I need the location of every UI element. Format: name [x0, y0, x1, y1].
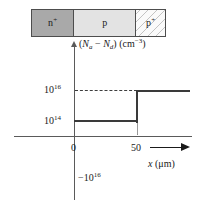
y-axis-arrow-icon: [71, 41, 77, 47]
dashed-guide-1e16: [75, 90, 137, 91]
xtick-0: 0: [71, 143, 76, 153]
x-axis-line: [14, 136, 192, 137]
ytick-neg-1e16: −1016: [78, 173, 101, 183]
doping-profile-figure: n+ p p+ (Na − Nd) (cm−3) 1016 1014 −1016: [0, 0, 202, 205]
device-region-p-plus: p+: [136, 10, 165, 36]
device-cross-section-bar: n+ p p+: [31, 9, 166, 37]
x-axis-arrow-shaft-icon: [150, 147, 183, 149]
y-axis-label: (Na − Nd) (cm−3): [79, 39, 146, 49]
step-drop-tick-x50: [137, 123, 138, 134]
x-axis-arrow-head-icon: [181, 143, 190, 151]
curve-segment-p: [74, 120, 137, 122]
curve-step-riser: [136, 90, 138, 123]
curve-segment-p-plus: [137, 90, 190, 92]
device-region-p-label: p: [102, 18, 107, 28]
plot-area: (Na − Nd) (cm−3) 1016 1014 −1016 0 50 x …: [0, 37, 202, 205]
device-region-p-plus-label: p+: [146, 18, 155, 28]
xtick-50: 50: [131, 143, 141, 153]
device-region-n-plus: n+: [32, 10, 74, 36]
device-region-n-plus-label: n+: [48, 18, 57, 28]
x-axis-label: x (μm): [148, 159, 175, 169]
device-region-p: p: [74, 10, 136, 36]
